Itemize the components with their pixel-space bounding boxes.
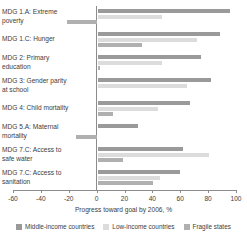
x-axis-tick xyxy=(97,190,98,193)
x-axis-tick-label: 0 xyxy=(84,195,110,202)
bar-mid xyxy=(98,170,180,174)
bar-group xyxy=(13,98,236,121)
bar-low xyxy=(98,38,197,42)
bar-frag xyxy=(98,43,143,47)
bar-mid xyxy=(98,9,230,13)
bar-low xyxy=(98,15,162,19)
x-axis-tick-label: 40 xyxy=(139,195,165,202)
bar-low xyxy=(98,153,210,157)
bar-low xyxy=(98,61,162,65)
x-axis-tick-label: 20 xyxy=(112,195,138,202)
x-axis-tick xyxy=(236,190,237,193)
bar-group xyxy=(13,144,236,167)
x-axis-tick-label: 80 xyxy=(195,195,221,202)
x-axis-tick xyxy=(125,190,126,193)
bar-low xyxy=(98,176,161,180)
legend-item[interactable]: Middle-income countries xyxy=(16,223,94,230)
legend-swatch-icon xyxy=(103,224,109,230)
legend-label: Fragile states xyxy=(193,223,231,230)
legend-label: Middle-income countries xyxy=(25,223,94,230)
x-axis-tick-label: -60 xyxy=(0,195,26,202)
legend-item[interactable]: Fragile states xyxy=(184,223,231,230)
bar-group xyxy=(13,29,236,52)
progress-toward-mdg-goals-bar-chart: MDG 1.A: ExtremepovertyMDG 1.C: HungerMD… xyxy=(0,0,247,242)
bar-group xyxy=(13,121,236,144)
x-axis-tick xyxy=(13,190,14,193)
bar-mid xyxy=(98,78,211,82)
bar-low xyxy=(98,84,187,88)
chart-legend: Middle-income countriesLow-income countr… xyxy=(0,223,247,230)
bar-group xyxy=(13,52,236,75)
bar-mid xyxy=(98,147,183,151)
bar-frag xyxy=(98,158,123,162)
bar-group xyxy=(13,167,236,190)
x-axis-tick-label: -40 xyxy=(28,195,54,202)
x-axis-tick xyxy=(208,190,209,193)
bar-group xyxy=(13,75,236,98)
x-axis-tick xyxy=(152,190,153,193)
bar-frag xyxy=(98,181,154,185)
bar-frag xyxy=(98,66,101,70)
x-axis-tick-label: 60 xyxy=(167,195,193,202)
bar-mid xyxy=(98,55,201,59)
x-axis-tick xyxy=(41,190,42,193)
bar-low xyxy=(98,107,158,111)
x-axis-tick xyxy=(180,190,181,193)
x-axis-tick xyxy=(69,190,70,193)
bar-group xyxy=(13,6,236,29)
x-axis-title: Progress toward goal by 2006, % xyxy=(0,206,247,213)
bar-frag xyxy=(76,135,97,139)
legend-swatch-icon xyxy=(184,224,190,230)
bar-mid xyxy=(98,101,190,105)
plot-area xyxy=(13,6,236,190)
legend-item[interactable]: Low-income countries xyxy=(103,223,174,230)
legend-label: Low-income countries xyxy=(112,223,174,230)
bar-frag xyxy=(67,20,96,24)
bar-mid xyxy=(98,124,138,128)
legend-swatch-icon xyxy=(16,224,22,230)
bar-mid xyxy=(98,32,221,36)
x-axis-tick-label: -20 xyxy=(56,195,82,202)
bar-frag xyxy=(98,112,113,116)
x-axis-tick-label: 100 xyxy=(223,195,247,202)
